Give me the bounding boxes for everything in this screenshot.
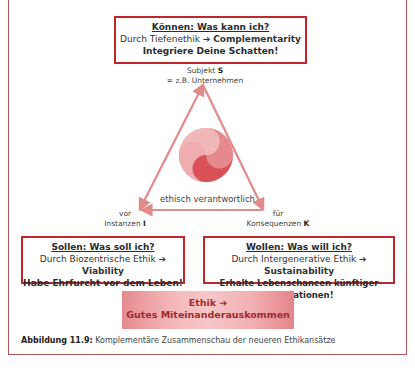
sollen-target: Viability: [82, 266, 124, 276]
sollen-method: Durch Biozentrische Ethik: [40, 254, 156, 264]
koennen-heading: Können: Was kann ich?: [116, 21, 305, 33]
wollen-method: Durch Intergenerative Ethik: [231, 254, 356, 264]
sollen-maxim: Habe Ehrfurcht vor dem Leben!: [23, 277, 183, 289]
wollen-heading: Wollen: Was will ich?: [205, 241, 393, 253]
apex-label: Subjekt S = z.B. Unternehmen: [160, 66, 250, 86]
right-corner-label: für Konsequenzen K: [244, 209, 312, 229]
koennen-method: Durch Tiefenethik: [120, 34, 200, 44]
ethik-box: Ethik ➔ Gutes Miteinanderauskommen: [122, 291, 294, 329]
caption-text: Komplementäre Zusammenschau der neueren …: [95, 336, 335, 345]
figure-caption: Abbildung 11.9: Komplementäre Zusammensc…: [21, 336, 336, 345]
koennen-box: Können: Was kann ich? Durch Tiefenethik …: [114, 16, 307, 64]
sollen-box: Sollen: Was soll ich? Durch Biozentrisch…: [21, 236, 185, 284]
arrow-right-icon: ➔: [359, 254, 367, 264]
wollen-box: Wollen: Was will ich? Durch Intergenerat…: [203, 236, 395, 284]
left-corner-label: vor Instanzen I: [100, 209, 150, 229]
caption-label: Abbildung 11.9:: [21, 336, 93, 345]
arrow-right-icon: ➔: [219, 297, 227, 308]
center-label: ethisch verantwortlich: [160, 194, 252, 204]
arrow-right-icon: ➔: [203, 34, 211, 44]
swirl-icon: [179, 128, 233, 182]
sollen-heading: Sollen: Was soll ich?: [23, 241, 183, 253]
koennen-target: Complementarity: [213, 34, 301, 44]
arrow-right-icon: ➔: [159, 254, 167, 264]
wollen-target: Sustainability: [264, 266, 334, 276]
koennen-maxim: Integriere Deine Schatten!: [116, 45, 305, 57]
